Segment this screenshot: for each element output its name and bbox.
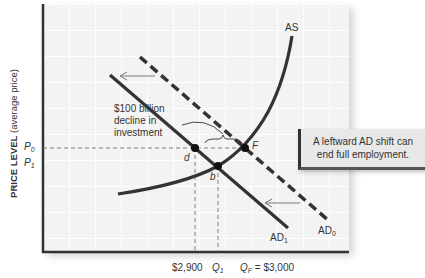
callout-line-1: A leftward AD shift can xyxy=(313,135,413,148)
ad1-label: AD1 xyxy=(270,232,288,244)
tick-q1-letter: Q xyxy=(212,262,220,273)
tick-p0-sub: 0 xyxy=(31,146,35,153)
investment-annotation: $100 billion decline in investment xyxy=(114,103,165,139)
tick-qf-letter: Q xyxy=(240,262,248,273)
ad1-label-text: AD xyxy=(270,232,284,243)
tick-qf-value: = $3,000 xyxy=(252,262,294,273)
tick-p0: P0 xyxy=(24,141,35,153)
y-axis-label-rest: (average price) xyxy=(8,69,19,136)
tick-p1: P1 xyxy=(24,157,35,169)
y-axis-label: PRICE LEVEL (average price) xyxy=(8,59,19,209)
ad0-label-sub: 0 xyxy=(332,230,336,237)
ad0-label: AD0 xyxy=(318,225,336,237)
ad0-label-text: AD xyxy=(318,225,332,236)
tick-p1-letter: P xyxy=(24,157,31,168)
ad1-label-sub: 1 xyxy=(284,237,288,244)
tick-qf: QF = $3,000 xyxy=(240,262,294,274)
point-f xyxy=(241,144,249,152)
point-b-label: b xyxy=(210,171,216,182)
y-axis-label-bold: PRICE LEVEL xyxy=(8,136,19,198)
annotation-line-2: decline in xyxy=(114,115,165,127)
callout-box: A leftward AD shift can end full employm… xyxy=(298,129,425,170)
tick-p0-letter: P xyxy=(24,141,31,152)
tick-q1: Q1 xyxy=(212,262,224,274)
point-d xyxy=(191,144,199,152)
tick-2900: $2,900 xyxy=(172,262,203,273)
point-b xyxy=(214,162,222,170)
annotation-line-1: $100 billion xyxy=(114,103,165,115)
as-label: AS xyxy=(285,22,298,33)
annotation-line-3: investment xyxy=(114,127,165,139)
point-f-label: F xyxy=(252,140,258,151)
point-d-label: d xyxy=(184,152,190,163)
callout-line-2: end full employment. xyxy=(313,148,413,161)
ad1-curve xyxy=(110,75,288,228)
tick-q1-sub: 1 xyxy=(220,267,224,274)
tick-p1-sub: 1 xyxy=(31,162,35,169)
